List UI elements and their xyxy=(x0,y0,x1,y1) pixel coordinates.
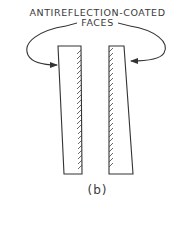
left-plate xyxy=(58,46,82,174)
right-plate xyxy=(109,46,133,174)
figure-caption: (b) xyxy=(0,183,195,197)
right-arrow-icon xyxy=(130,26,165,61)
faces-leader-lines xyxy=(66,23,130,26)
